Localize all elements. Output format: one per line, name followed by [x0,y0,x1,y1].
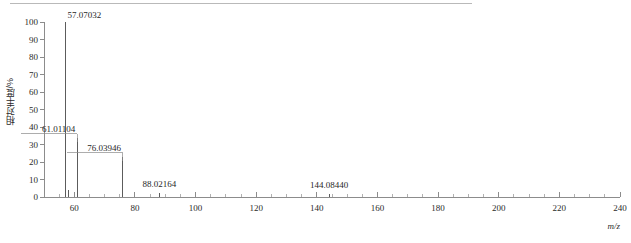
x-axis-ticks-group: 6080100120140160180200220240 [44,192,627,213]
peak-label: 57.07032 [67,10,101,20]
y-tick-label: 60 [29,87,39,97]
y-tick-label: 10 [29,175,39,185]
y-tick-label: 30 [29,140,39,150]
x-tick-label: 200 [492,203,506,213]
y-tick-label: 0 [34,192,39,202]
x-tick-label: 220 [553,203,567,213]
y-tick-label: 100 [25,17,39,27]
peak-label: 88.02164 [142,179,176,189]
y-tick-label: 80 [29,52,39,62]
y-tick-label: 20 [29,157,39,167]
y-tick-label: 50 [29,105,39,115]
x-tick-label: 60 [70,203,80,213]
peak-label: 76.03946 [87,143,121,153]
y-axis-ticks-group: 0102030405060708090100 [25,17,45,202]
x-tick-label: 100 [189,203,203,213]
spectrum-canvas: 0102030405060708090100 60801001201401601… [0,0,631,243]
y-tick-label: 70 [29,70,39,80]
x-tick-label: 180 [431,203,445,213]
peak-labels-group: 57.0703261.0110476.0394688.02164144.0844… [21,10,348,190]
peaks-group [65,22,329,197]
plot-area: 0102030405060708090100 60801001201401601… [0,0,631,243]
mass-spectrum-figure: 相对丰度/% 0102030405060708090100 6080100120… [0,0,631,243]
peak-label-leader [67,153,123,161]
x-tick-label: 140 [310,203,324,213]
peak-label: 144.08440 [310,180,349,190]
x-tick-label: 80 [130,203,140,213]
x-tick-label: 240 [613,203,627,213]
y-tick-label: 90 [29,35,39,45]
x-tick-label: 120 [249,203,263,213]
peak-label: 61.01104 [42,124,76,134]
y-tick-label: 40 [29,122,39,132]
x-tick-label: 160 [371,203,385,213]
